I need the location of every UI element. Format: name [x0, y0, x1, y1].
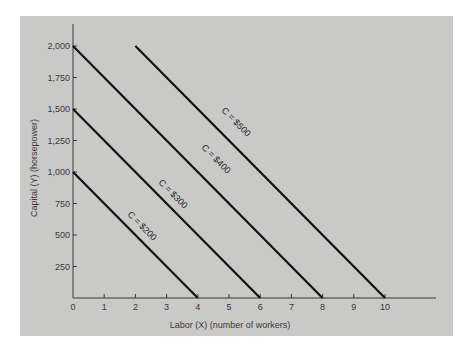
x-axis-label: Labor (X) (number of workers)	[170, 320, 291, 330]
y-axis-label: Capital (Y) (horsepower)	[29, 119, 39, 217]
x-tick-label: 2	[133, 302, 138, 312]
y-tick-label: 1,250	[47, 136, 70, 146]
y-tick-label: 1,500	[47, 104, 70, 114]
x-tick-label: 0	[70, 302, 75, 312]
x-tick-label: 3	[164, 302, 169, 312]
y-tick-label: 750	[55, 199, 70, 209]
isocost-line-label: C = $200	[126, 209, 159, 242]
isocost-line	[135, 46, 385, 298]
x-tick-label: 8	[320, 302, 325, 312]
y-tick-label: 1,750	[47, 73, 70, 83]
x-tick-label: 5	[226, 302, 231, 312]
isocost-line	[73, 109, 260, 298]
x-tick-label: 10	[380, 302, 390, 312]
x-tick-label: 9	[351, 302, 356, 312]
isocost-line-label: C = $400	[200, 142, 233, 175]
isocost-line	[73, 46, 323, 298]
y-tick-label: 2,000	[47, 41, 70, 51]
isocost-chart: 0123456789102505007501,0001,2501,5001,75…	[0, 0, 472, 353]
axes: 0123456789102505007501,0001,2501,5001,75…	[47, 24, 436, 312]
x-tick-label: 7	[289, 302, 294, 312]
y-tick-label: 250	[55, 262, 70, 272]
x-tick-label: 1	[102, 302, 107, 312]
x-tick-label: 4	[195, 302, 200, 312]
y-tick-label: 500	[55, 230, 70, 240]
line-labels: C = $200C = $300C = $400C = $500	[126, 105, 253, 242]
isocost-line-label: C = $500	[220, 105, 253, 138]
isocost-line-label: C = $300	[157, 177, 190, 210]
y-tick-label: 1,000	[47, 167, 70, 177]
isocost-line	[73, 172, 198, 298]
x-tick-label: 6	[258, 302, 263, 312]
